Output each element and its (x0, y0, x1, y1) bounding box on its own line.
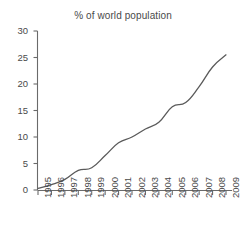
x-axis-tick-label: 2008 (217, 177, 227, 198)
x-axis-tick-label: 1995 (43, 177, 53, 198)
plot-area (0, 0, 246, 235)
y-axis-tick-label: 25 (6, 53, 28, 63)
x-axis-tick-label: 2001 (123, 177, 133, 198)
y-axis-tick-label: 15 (6, 106, 28, 116)
y-axis-tick-label: 20 (6, 79, 28, 89)
x-axis-tick-label: 2003 (150, 177, 160, 198)
chart-axes (38, 31, 233, 191)
x-axis-tick-label: 2009 (231, 177, 241, 198)
y-axis-tick-label: 30 (6, 26, 28, 36)
x-axis-tick-label: 2005 (177, 177, 187, 198)
chart-container: % of world population 051015202530 19951… (0, 0, 246, 235)
x-axis-tick-label: 2000 (110, 177, 120, 198)
x-axis-tick-label: 2002 (137, 177, 147, 198)
x-axis-tick-label: 1996 (56, 177, 66, 198)
x-axis-tick-label: 1999 (96, 177, 106, 198)
y-axis-tick-label: 5 (6, 159, 28, 169)
x-axis-tick-label: 2004 (163, 177, 173, 198)
y-axis-tick-label: 0 (6, 185, 28, 195)
x-axis-tick-label: 1997 (69, 177, 79, 198)
y-axis-ticks (34, 31, 38, 190)
y-axis-tick-label: 10 (6, 132, 28, 142)
data-series-line (38, 55, 226, 189)
x-axis-tick-label: 2006 (190, 177, 200, 198)
x-axis-tick-label: 2007 (204, 177, 214, 198)
x-axis-tick-label: 1998 (83, 177, 93, 198)
